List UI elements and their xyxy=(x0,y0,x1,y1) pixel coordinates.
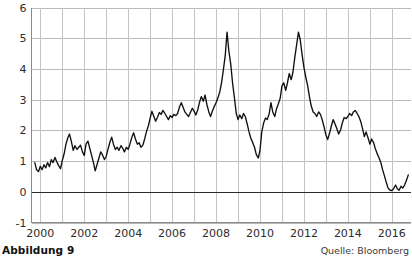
plot-frame xyxy=(32,8,411,223)
y-tick-label: 5 xyxy=(20,32,27,45)
figure-source: Quelle: Bloomberg xyxy=(321,245,409,256)
x-tick-label: 2014 xyxy=(334,227,362,240)
y-tick-label: 3 xyxy=(20,94,27,107)
data-series-group xyxy=(35,32,409,190)
y-tick-label: 2 xyxy=(20,124,27,137)
x-tick-label: 2002 xyxy=(70,227,98,240)
line-chart: 6543210-1 200020022004200620082010201220… xyxy=(0,0,412,240)
x-tick-label: 2010 xyxy=(246,227,274,240)
x-tick-label: 2016 xyxy=(378,227,406,240)
series-line xyxy=(35,32,409,190)
x-tick-label: 2004 xyxy=(114,227,142,240)
y-axis-tick-labels: 6543210-1 xyxy=(16,2,27,230)
x-axis-tick-labels: 200020022004200620082010201220142016 xyxy=(26,227,406,240)
y-tick-label: 4 xyxy=(20,63,27,76)
x-tick-label: 2008 xyxy=(202,227,230,240)
x-tick-label: 2012 xyxy=(290,227,318,240)
figure-caption: Abbildung 9 xyxy=(2,244,74,256)
y-tick-label: -1 xyxy=(16,217,27,230)
x-tick-label: 2006 xyxy=(158,227,186,240)
vertical-gridlines xyxy=(41,8,393,223)
x-tick-label: 2000 xyxy=(26,227,54,240)
horizontal-gridlines xyxy=(32,9,411,224)
y-tick-label: 1 xyxy=(20,155,27,168)
figure-container: 6543210-1 200020022004200620082010201220… xyxy=(0,0,412,262)
y-tick-label: 0 xyxy=(20,186,27,199)
y-tick-label: 6 xyxy=(20,2,27,15)
